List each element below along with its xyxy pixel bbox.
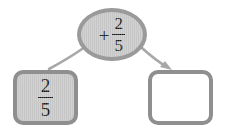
input-expression: 2 5: [38, 76, 53, 120]
answer-box[interactable]: [148, 70, 213, 125]
operator-expression: + 2 5: [99, 15, 126, 54]
input-fraction-numerator: 2: [40, 76, 52, 95]
operator-fraction: 2 5: [112, 15, 125, 54]
input-fraction: 2 5: [38, 76, 53, 120]
input-fraction-bar: [38, 97, 53, 99]
operator-fraction-denominator: 5: [114, 37, 125, 54]
input-to-operator-connector: [49, 49, 82, 69]
diagram-canvas: + 2 5 2 5: [0, 0, 226, 137]
operator-bubble: + 2 5: [77, 8, 147, 61]
input-value-box: 2 5: [13, 70, 78, 125]
input-fraction-denominator: 5: [40, 100, 52, 119]
operator-fraction-numerator: 2: [114, 15, 125, 32]
plus-sign-icon: +: [99, 26, 110, 45]
